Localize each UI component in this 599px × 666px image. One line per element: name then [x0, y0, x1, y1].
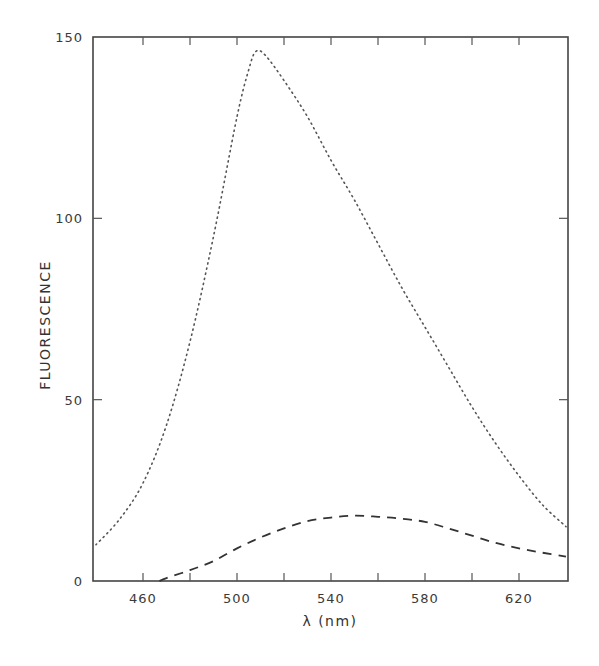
- x-tick-label: 460: [129, 591, 157, 606]
- x-tick-label: 580: [411, 591, 439, 606]
- y-tick-label: 50: [64, 393, 83, 408]
- dashed-curve: [159, 516, 566, 581]
- y-tick-label: 0: [74, 574, 83, 589]
- x-tick-label: 620: [505, 591, 533, 606]
- data-series: [96, 50, 566, 581]
- dotted-curve: [96, 50, 566, 544]
- y-tick-label: 100: [55, 211, 83, 226]
- x-axis-label: λ (nm): [302, 613, 357, 629]
- y-axis-label: FLUORESCENCE: [37, 260, 53, 390]
- y-tick-label: 150: [55, 30, 83, 45]
- plot-frame: [93, 37, 568, 581]
- fluorescence-chart: 460500540580620 050100150 λ (nm) FLUORES…: [0, 0, 599, 666]
- x-tick-label: 500: [223, 591, 251, 606]
- x-axis-ticks: 460500540580620: [129, 37, 533, 606]
- y-axis-ticks: 050100150: [55, 30, 568, 589]
- x-tick-label: 540: [317, 591, 345, 606]
